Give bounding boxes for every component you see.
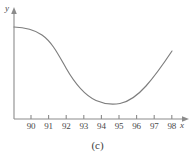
plot-svg bbox=[0, 0, 195, 159]
x-tick-label: 96 bbox=[128, 121, 146, 131]
x-tick-label: 92 bbox=[57, 121, 75, 131]
figure-caption: (c) bbox=[0, 139, 195, 151]
x-tick-label: 97 bbox=[145, 121, 163, 131]
x-tick-label: 93 bbox=[75, 121, 93, 131]
y-axis-label: y bbox=[5, 3, 9, 13]
x-tick-label: 95 bbox=[110, 121, 128, 131]
x-tick-label: 94 bbox=[92, 121, 110, 131]
x-tick-label: 91 bbox=[40, 121, 58, 131]
figure-container: y x 90 91 92 93 94 95 96 97 98 (c) bbox=[0, 0, 195, 159]
data-curve bbox=[14, 27, 172, 104]
x-tick-label: 90 bbox=[22, 121, 40, 131]
x-tick-marks bbox=[31, 115, 172, 119]
y-axis-arrow-icon bbox=[11, 7, 17, 14]
x-tick-label: 98 bbox=[163, 121, 181, 131]
